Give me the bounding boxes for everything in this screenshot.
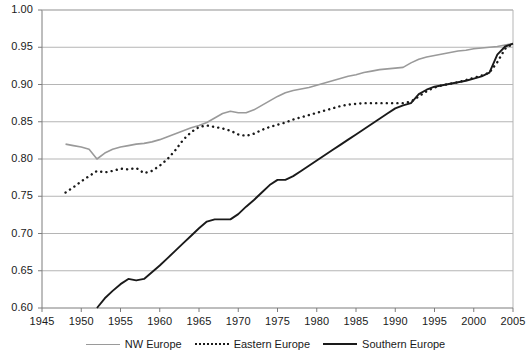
- legend-item-eastern-europe: Eastern Europe: [195, 338, 310, 350]
- series-line-eastern-europe: [66, 44, 513, 193]
- legend-item-southern-europe: Southern Europe: [323, 338, 445, 350]
- line-chart: 0.600.650.700.750.800.850.900.951.00 194…: [0, 0, 531, 364]
- plot-area: [0, 0, 531, 364]
- legend-label-eastern-europe: Eastern Europe: [234, 338, 310, 350]
- chart-legend: NW Europe Eastern Europe Southern Europe: [0, 338, 531, 350]
- y-tick-label: 0.70: [0, 227, 33, 239]
- legend-label-southern-europe: Southern Europe: [362, 338, 445, 350]
- series-line-nw-europe: [66, 44, 513, 159]
- y-tick-label: 0.65: [0, 264, 33, 276]
- legend-label-nw-europe: NW Europe: [125, 338, 182, 350]
- y-tick-label: 0.90: [0, 78, 33, 90]
- legend-swatch-southern-europe: [323, 343, 357, 345]
- y-tick-label: 0.75: [0, 189, 33, 201]
- series-line-southern-europe: [97, 44, 513, 308]
- y-tick-label: 0.80: [0, 152, 33, 164]
- y-tick-label: 0.60: [0, 301, 33, 313]
- legend-swatch-nw-europe: [86, 344, 120, 345]
- x-tick-label: 2005: [488, 315, 531, 327]
- legend-swatch-eastern-europe: [195, 343, 229, 345]
- legend-item-nw-europe: NW Europe: [86, 338, 182, 350]
- y-tick-label: 0.95: [0, 40, 33, 52]
- y-tick-label: 0.85: [0, 115, 33, 127]
- y-tick-label: 1.00: [0, 3, 33, 15]
